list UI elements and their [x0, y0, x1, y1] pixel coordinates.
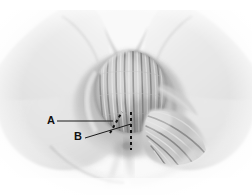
body-group: [0, 0, 252, 195]
bottom-fade: [0, 178, 252, 195]
anatomical-figure: A B: [0, 0, 252, 195]
top-fade: [0, 0, 252, 10]
label-b: B: [74, 131, 82, 142]
edge-vignette: [0, 0, 252, 195]
illustration-canvas: [0, 0, 252, 195]
label-a: A: [47, 115, 55, 126]
